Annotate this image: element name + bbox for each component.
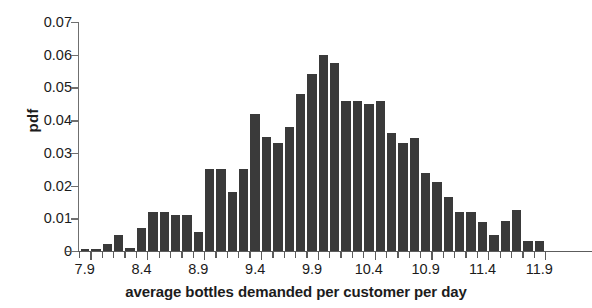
histogram-bar [136,228,147,251]
x-axis-tick-mark [102,252,103,258]
y-axis-tick-mark [71,120,78,121]
x-axis-tick-mark [500,252,501,258]
x-axis-tick-label: 8.4 [112,261,172,277]
y-axis-tick-mark [71,22,78,23]
histogram-bar [204,169,215,251]
x-axis-tick-mark [136,252,137,258]
x-axis-tick-mark [181,252,182,258]
histogram-bar [181,215,192,251]
x-axis-tick-mark [397,252,398,258]
y-axis-tick-mark [71,153,78,154]
histogram-bar [329,63,340,251]
histogram-bar [488,235,499,251]
x-axis-tick-mark [477,252,478,258]
y-axis-tick-label: 0.03 [18,145,72,161]
x-axis-tick-mark [420,252,421,258]
x-axis-label: average bottles demanded per customer pe… [0,283,592,300]
y-axis-tick-mark [71,251,78,252]
x-axis-tick-mark [340,252,341,258]
histogram-bar [522,241,533,251]
histogram-bar [465,212,476,251]
y-axis-tick-label: 0.06 [18,47,72,63]
y-axis-tick-mark [71,55,78,56]
x-axis-tick-mark [534,252,535,258]
histogram-bar [340,101,351,251]
histogram-bar [386,133,397,251]
x-axis-tick-mark [431,252,432,260]
histogram-bar [238,169,249,251]
x-axis-tick-label: 9.4 [225,261,285,277]
x-axis-tick-mark [443,252,444,258]
histogram-bar [272,143,283,251]
x-axis-tick-mark [375,252,376,260]
histogram-bar [159,212,170,251]
x-axis-tick-mark [329,252,330,258]
y-axis-tick-label: 0.04 [18,112,72,128]
y-axis-tick-label: 0.05 [18,79,72,95]
x-axis-tick-mark [488,252,489,260]
x-axis-tick-label: 8.9 [168,261,228,277]
x-axis-tick-mark [511,252,512,258]
x-axis-tick-mark [295,252,296,258]
x-axis-tick-mark [465,252,466,258]
histogram-bar [215,169,226,251]
histogram-bar [397,143,408,251]
histogram-bar [295,94,306,251]
histogram-bar [261,137,272,252]
x-axis-tick-label: 10.9 [396,261,456,277]
histogram-bar [534,241,545,251]
histogram-bar [363,104,374,251]
histogram-bar [227,192,238,251]
histogram-bar [454,212,465,251]
x-axis-tick-mark [522,252,523,258]
x-axis-tick-marks [0,252,592,260]
x-axis-tick-mark [159,252,160,258]
x-axis-tick-mark [318,252,319,260]
x-axis-tick-mark [409,252,410,258]
x-axis-tick-mark [261,252,262,260]
x-axis-tick-mark [249,252,250,258]
y-axis-tick-mark [71,218,78,219]
x-axis-tick-mark [113,252,114,258]
x-axis-tick-mark [272,252,273,258]
x-axis-tick-mark [90,252,91,260]
histogram-bar [352,101,363,251]
x-axis-tick-mark [352,252,353,258]
y-axis-tick-label: 0.02 [18,178,72,194]
x-axis-tick-mark [147,252,148,260]
histogram-bar [431,182,442,251]
x-axis-tick-mark [170,252,171,258]
x-axis-tick-label: 10.4 [339,261,399,277]
y-axis-tick-mark [71,186,78,187]
x-axis-tick-label: 7.9 [55,261,115,277]
x-axis-tick-label: 11.9 [509,261,569,277]
x-axis-tick-mark [124,252,125,258]
x-axis-tick-mark [306,252,307,258]
histogram-bar [511,210,522,251]
histogram-bar [500,221,511,251]
x-axis-tick-mark [215,252,216,258]
histogram-bar [249,114,260,251]
x-axis-tick-mark [454,252,455,258]
x-axis-tick-labels: 7.98.48.99.49.910.410.911.411.9 [0,261,592,281]
histogram-bar [420,173,431,252]
histogram-chart: pdf 0.070.060.050.040.030.020.010 7.98.4… [0,0,592,308]
x-axis-tick-mark [79,252,80,258]
histogram-bar [193,232,204,251]
y-axis-tick-label: 0.01 [18,210,72,226]
histogram-bar [284,127,295,251]
y-axis-tick-mark [71,87,78,88]
x-axis-tick-mark [227,252,228,258]
plot-area [79,22,545,251]
histogram-bar [306,74,317,251]
histogram-bar [477,222,488,251]
x-axis-tick-mark [193,252,194,258]
histogram-bar [443,197,454,251]
x-axis-tick-mark [386,252,387,258]
histogram-bar [318,55,329,251]
histogram-bar [113,235,124,251]
y-axis-tick-label: 0.07 [18,14,72,30]
histogram-bar [409,138,420,251]
histogram-bar [375,101,386,251]
histogram-bar [170,215,181,251]
